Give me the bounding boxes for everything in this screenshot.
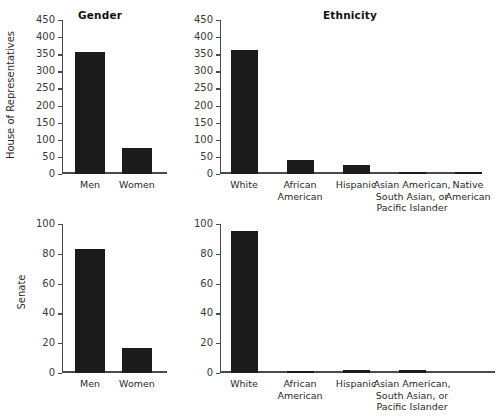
- y-axis-tick: [216, 71, 221, 72]
- bar: [399, 370, 426, 373]
- x-axis-category-label-line: Pacific Islander: [371, 401, 453, 413]
- y-axis-tick: [58, 343, 63, 344]
- y-axis-tick: [216, 313, 221, 314]
- y-axis-tick: [216, 37, 221, 38]
- y-axis-tick: [216, 343, 221, 344]
- y-axis-tick: [58, 140, 63, 141]
- figure-bar-chart-grid: Gender House of Representatives 05010015…: [0, 0, 501, 418]
- y-axis-tick: [216, 140, 221, 141]
- x-axis-category-label-line: Women: [105, 378, 169, 390]
- x-axis-category-label-line: American: [259, 390, 341, 402]
- y-axis-tick: [216, 224, 221, 225]
- y-axis-tick-label: 0: [49, 169, 55, 179]
- y-axis-tick: [58, 106, 63, 107]
- y-axis-tick: [58, 174, 63, 175]
- y-axis-tick-label: 250: [36, 83, 55, 93]
- y-axis-tick-label: 400: [36, 32, 55, 42]
- y-axis-tick: [216, 20, 221, 21]
- bar: [75, 249, 105, 373]
- bar: [287, 160, 314, 174]
- y-axis-tick-label: 60: [200, 279, 213, 289]
- y-axis-tick-label: 80: [200, 249, 213, 259]
- y-axis-tick-label: 450: [36, 15, 55, 25]
- y-axis-tick: [216, 254, 221, 255]
- y-axis-tick: [216, 123, 221, 124]
- y-axis-tick-label: 0: [207, 169, 213, 179]
- panel-house-gender: Gender House of Representatives 05010015…: [0, 0, 180, 205]
- y-axis-label-senate: Senate: [17, 262, 27, 322]
- y-axis-line: [220, 20, 221, 174]
- y-axis-tick: [58, 88, 63, 89]
- panel-senate-gender: Senate 020406080100MenWomen: [0, 205, 180, 418]
- x-axis-category-label-line: Native: [427, 179, 501, 191]
- y-axis-tick-label: 60: [42, 279, 55, 289]
- y-axis-tick-label: 0: [49, 368, 55, 378]
- y-axis-tick: [58, 20, 63, 21]
- plot-area-house-ethnicity: 050100150200250300350400450WhiteAfricanA…: [220, 20, 480, 174]
- y-axis-tick-label: 100: [194, 219, 213, 229]
- bar: [399, 172, 426, 174]
- y-axis-tick-label: 50: [42, 152, 55, 162]
- y-axis-tick-label: 50: [200, 152, 213, 162]
- bar: [122, 348, 152, 373]
- y-axis-tick: [216, 106, 221, 107]
- bar: [343, 165, 370, 174]
- y-axis-tick-label: 100: [36, 219, 55, 229]
- x-axis-category-label-line: South Asian, or: [371, 390, 453, 402]
- plot-area-senate-ethnicity: 020406080100WhiteAfricanAmericanHispanic…: [220, 224, 495, 373]
- y-axis-tick-label: 40: [200, 308, 213, 318]
- y-axis-tick-label: 150: [36, 118, 55, 128]
- y-axis-tick-label: 20: [42, 338, 55, 348]
- y-axis-tick: [58, 54, 63, 55]
- x-axis-category-label-line: American: [427, 191, 501, 203]
- y-axis-tick-label: 40: [42, 308, 55, 318]
- x-axis-category-label-line: Women: [105, 179, 169, 191]
- y-axis-tick: [58, 37, 63, 38]
- y-axis-tick-label: 300: [194, 66, 213, 76]
- y-axis-tick: [58, 123, 63, 124]
- bar: [122, 148, 152, 174]
- y-axis-tick: [58, 313, 63, 314]
- y-axis-line: [62, 224, 63, 373]
- y-axis-tick-label: 150: [194, 118, 213, 128]
- y-axis-tick: [58, 71, 63, 72]
- y-axis-tick-label: 100: [36, 135, 55, 145]
- y-axis-tick: [58, 157, 63, 158]
- y-axis-tick-label: 350: [36, 49, 55, 59]
- y-axis-label-house: House of Representatives: [6, 30, 16, 160]
- y-axis-tick: [58, 224, 63, 225]
- y-axis-tick-label: 450: [194, 15, 213, 25]
- bar: [231, 231, 258, 373]
- y-axis-tick: [58, 373, 63, 374]
- y-axis-tick-label: 250: [194, 83, 213, 93]
- y-axis-tick-label: 350: [194, 49, 213, 59]
- y-axis-tick: [216, 157, 221, 158]
- plot-area-house-gender: 050100150200250300350400450MenWomen: [62, 20, 167, 174]
- y-axis-tick-label: 0: [207, 368, 213, 378]
- x-axis-category-label-line: Asian American,: [371, 378, 453, 390]
- x-axis-category-label: Women: [105, 378, 169, 390]
- y-axis-tick-label: 80: [42, 249, 55, 259]
- y-axis-line: [62, 20, 63, 174]
- y-axis-tick-label: 400: [194, 32, 213, 42]
- x-axis-category-label: Women: [105, 179, 169, 191]
- bar: [455, 172, 482, 174]
- y-axis-line: [220, 224, 221, 373]
- plot-area-senate-gender: 020406080100MenWomen: [62, 224, 167, 373]
- y-axis-tick-label: 200: [36, 101, 55, 111]
- y-axis-tick-label: 20: [200, 338, 213, 348]
- y-axis-tick: [216, 54, 221, 55]
- bar: [287, 371, 314, 373]
- y-axis-tick: [216, 284, 221, 285]
- y-axis-tick: [216, 88, 221, 89]
- y-axis-tick: [216, 373, 221, 374]
- bar: [343, 370, 370, 373]
- y-axis-tick: [58, 254, 63, 255]
- y-axis-tick-label: 100: [194, 135, 213, 145]
- x-axis-category-label: NativeAmerican: [427, 179, 501, 202]
- y-axis-tick: [216, 174, 221, 175]
- x-axis-category-label: Asian American,South Asian, orPacific Is…: [371, 378, 453, 413]
- panel-senate-ethnicity: 020406080100WhiteAfricanAmericanHispanic…: [180, 205, 501, 418]
- bar: [75, 52, 105, 175]
- y-axis-tick-label: 200: [194, 101, 213, 111]
